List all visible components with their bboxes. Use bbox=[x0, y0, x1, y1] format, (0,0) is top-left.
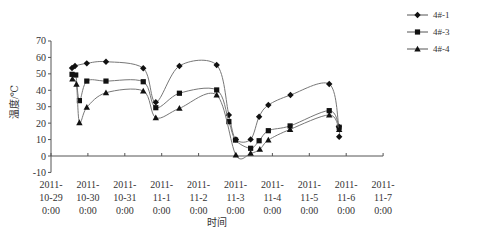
series-line bbox=[72, 73, 339, 148]
y-tick-label: 70 bbox=[36, 35, 46, 46]
diamond-marker bbox=[84, 60, 90, 66]
y-tick-label: 20 bbox=[36, 118, 46, 129]
y-tick-label: 60 bbox=[36, 52, 46, 63]
diamond-marker bbox=[247, 136, 253, 142]
y-tick-label: 0 bbox=[41, 151, 46, 162]
series-4#-1 bbox=[69, 58, 343, 142]
square-marker bbox=[141, 79, 146, 84]
series-line bbox=[72, 60, 340, 142]
diamond-marker bbox=[103, 58, 109, 64]
x-tick-label: 2011-11-60:00 bbox=[335, 179, 358, 216]
square-marker bbox=[233, 137, 238, 142]
x-tick-label: 2011-11-70:00 bbox=[372, 179, 395, 216]
triangle-marker bbox=[176, 105, 182, 111]
y-tick-label: 50 bbox=[36, 68, 46, 79]
square-marker bbox=[153, 105, 158, 110]
legend-item: 4#-1 bbox=[407, 10, 450, 20]
legend-label: 4#-3 bbox=[433, 27, 450, 37]
y-tick-label: 40 bbox=[36, 85, 46, 96]
series-group bbox=[69, 58, 343, 158]
x-tick-label: 2011-11-30:00 bbox=[224, 179, 247, 216]
x-tick-label: 2011-11-50:00 bbox=[298, 179, 321, 216]
triangle-marker bbox=[233, 152, 239, 158]
diamond-marker bbox=[256, 114, 262, 120]
x-tick-label: 2011-11-20:00 bbox=[187, 179, 210, 216]
x-axis-label: 时间 bbox=[207, 216, 227, 228]
y-tick-label: 30 bbox=[36, 101, 46, 112]
x-tick-label: 2011-11-40:00 bbox=[261, 179, 284, 216]
legend-label: 4#-4 bbox=[433, 44, 450, 54]
triangle-marker bbox=[73, 81, 79, 87]
square-marker bbox=[73, 72, 78, 77]
y-axis-label: 温度/℃ bbox=[8, 85, 20, 119]
diamond-marker bbox=[287, 92, 293, 98]
x-tick-label: 2011-11-10:00 bbox=[150, 179, 173, 216]
y-tick-label: 10 bbox=[36, 134, 46, 145]
diamond-marker bbox=[336, 134, 342, 140]
y-tick-label: -10 bbox=[33, 167, 46, 178]
line-chart: -100102030405060702011-10-290:002011-10-… bbox=[0, 0, 478, 239]
x-tick-label: 2011-10-310:00 bbox=[113, 179, 136, 216]
square-marker bbox=[103, 78, 108, 83]
legend-item: 4#-3 bbox=[407, 27, 450, 37]
square-marker bbox=[257, 138, 262, 143]
square-marker bbox=[84, 78, 89, 83]
x-tick-label: 2011-10-300:00 bbox=[76, 179, 99, 216]
square-marker bbox=[177, 91, 182, 96]
square-marker bbox=[266, 128, 271, 133]
legend: 4#-14#-34#-4 bbox=[407, 10, 450, 54]
legend-item: 4#-4 bbox=[407, 44, 450, 54]
x-tick-label: 2011-10-290:00 bbox=[39, 179, 62, 216]
series-4#-3 bbox=[69, 72, 341, 151]
legend-label: 4#-1 bbox=[433, 10, 450, 20]
triangle-marker bbox=[213, 92, 219, 98]
square-marker bbox=[415, 29, 420, 34]
diamond-marker bbox=[414, 12, 420, 18]
triangle-marker bbox=[265, 137, 271, 143]
